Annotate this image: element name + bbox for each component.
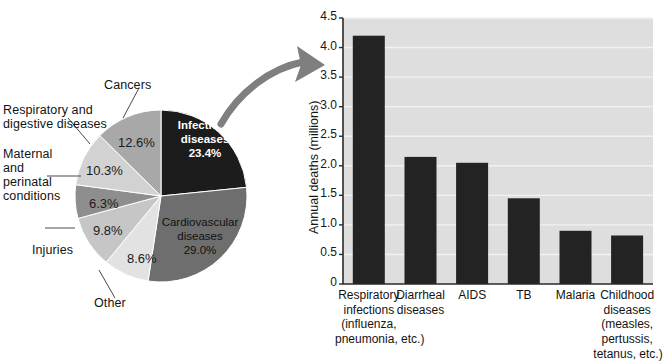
x-category-label-line: (measles, — [593, 317, 661, 332]
x-category-label-line: diseases — [387, 303, 455, 318]
y-tick-label: 4.0 — [311, 40, 337, 54]
pie-callout-maternal-line3: perinatal — [3, 175, 52, 190]
pie-slice-label-cardio-line2: diseases — [148, 230, 252, 244]
y-tick-label: 0 — [311, 276, 337, 290]
pie-callout-maternal-line2: and — [3, 161, 24, 176]
y-tick-label: 1.5 — [311, 187, 337, 201]
bar — [456, 163, 488, 284]
bar — [508, 198, 540, 284]
pie-slice-label-cardio-percent: 29.0% — [148, 244, 252, 258]
pie-callout-respiratory-line2: digestive diseases — [3, 117, 107, 132]
pie-slice-label-infectious-line2: diseases — [163, 133, 247, 147]
y-tick-label: 2.5 — [311, 128, 337, 142]
pie-callout-maternal-line1: Maternal — [3, 147, 52, 162]
y-tick-label: 3.5 — [311, 69, 337, 83]
x-category-label-line: (influenza, — [335, 317, 403, 332]
plot-background — [343, 18, 653, 284]
bar-chart — [336, 14, 656, 289]
pie-callout-injuries: Injuries — [32, 243, 73, 258]
pie-percent-maternal: 6.3% — [89, 196, 119, 211]
pie-callout-cancers: Cancers — [104, 78, 151, 93]
x-category-label-line: tetanus, etc.) — [593, 347, 661, 361]
bar — [405, 157, 437, 284]
pie-callout-respiratory-line1: Respiratory and — [3, 103, 93, 118]
y-tick-label: 4.5 — [311, 10, 337, 24]
y-tick-label: 1.0 — [311, 217, 337, 231]
pie-percent-injuries: 9.8% — [93, 223, 123, 238]
y-tick-label: 2.0 — [311, 158, 337, 172]
bar — [560, 231, 592, 284]
pie-callout-other: Other — [94, 296, 126, 311]
x-category-label: Childhooddiseases(measles,pertussis,teta… — [593, 288, 661, 361]
pie-percent-cancers: 12.6% — [118, 135, 155, 150]
bar — [353, 36, 385, 284]
y-tick-label: 3.0 — [311, 99, 337, 113]
bar — [611, 236, 643, 285]
x-category-label-line: pneumonia, etc.) — [335, 332, 403, 347]
pie-slice-label-cardio-line1: Cardiovascular — [148, 216, 252, 230]
x-category-label-line: diseases — [593, 303, 661, 318]
x-category-label-line: pertussis, — [593, 332, 661, 347]
pie-slice-label-infectious-percent: 23.4% — [163, 147, 247, 161]
y-tick-label: 0.5 — [311, 246, 337, 260]
pie-percent-respiratory: 10.3% — [86, 163, 123, 178]
pie-leader-line — [99, 270, 115, 298]
pie-callout-maternal-line4: conditions — [3, 189, 60, 204]
x-category-label-line: Childhood — [593, 288, 661, 303]
